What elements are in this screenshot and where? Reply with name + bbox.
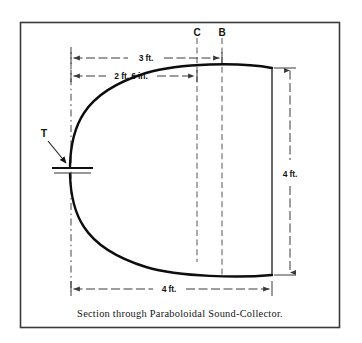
paraboloidal-sound-collector-diagram: C B 3 ft. 2 ft. 6 in. T 4 ft. — [0, 0, 362, 343]
dim-label-4ft-vertical: 4 ft. — [283, 169, 298, 179]
label-c: C — [193, 27, 200, 38]
focus-leader-line — [48, 141, 66, 163]
parabola-lower-branch — [70, 174, 272, 276]
dim-label-3ft: 3 ft. — [139, 53, 154, 63]
figure-caption: Section through Paraboloidal Sound-Colle… — [77, 308, 283, 319]
label-b: B — [218, 27, 225, 38]
figure-container: C B 3 ft. 2 ft. 6 in. T 4 ft. — [0, 0, 362, 343]
label-t-focus: T — [41, 127, 48, 139]
parabola-upper-branch — [70, 64, 272, 166]
dim-label-4ft-horizontal: 4 ft. — [162, 284, 177, 294]
